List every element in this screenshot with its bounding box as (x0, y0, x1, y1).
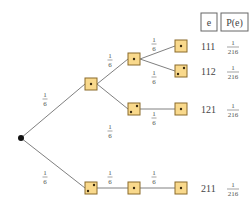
probability-tree-diagram: 1 6 1 6 1 6 1 6 1 6 1 6 1 (0, 0, 252, 215)
svg-text:6: 6 (152, 119, 156, 127)
svg-text:1: 1 (231, 39, 235, 47)
svg-text:1: 1 (231, 181, 235, 189)
svg-text:6: 6 (108, 61, 112, 69)
svg-text:1: 1 (152, 69, 156, 77)
svg-text:1: 1 (152, 110, 156, 118)
prob-label-12: 1 6 (152, 110, 157, 127)
svg-text:6: 6 (108, 178, 112, 186)
prob-label-1-upper: 1 6 (108, 52, 113, 69)
prob-label-root-upper: 1 6 (43, 91, 48, 108)
prob-label-21: 1 6 (152, 169, 157, 186)
svg-text:6: 6 (152, 45, 156, 53)
edge-1-to-11 (97, 59, 128, 84)
svg-text:216: 216 (228, 48, 239, 56)
die-face-2-icon (85, 182, 97, 194)
svg-text:216: 216 (228, 190, 239, 198)
outcome-row: 211 1 216 (201, 181, 239, 198)
svg-text:6: 6 (152, 178, 156, 186)
svg-text:6: 6 (43, 100, 47, 108)
root-node (18, 135, 24, 141)
edge-1-to-12 (97, 84, 128, 109)
svg-text:211: 211 (201, 183, 216, 194)
svg-text:6: 6 (152, 78, 156, 86)
svg-text:6: 6 (108, 132, 112, 140)
die-face-1-icon (175, 40, 187, 52)
prob-label-1-lower: 1 6 (108, 123, 113, 140)
svg-text:216: 216 (228, 73, 239, 81)
edge-root-to-1 (21, 84, 85, 138)
header-outcome: e (201, 13, 217, 31)
svg-text:1: 1 (108, 52, 112, 60)
svg-text:e: e (207, 17, 212, 28)
die-face-1-icon (175, 103, 187, 115)
svg-text:1: 1 (231, 102, 235, 110)
svg-text:111: 111 (201, 41, 215, 52)
prob-label-2: 1 6 (108, 169, 113, 186)
die-face-2-icon (128, 103, 140, 115)
outcome-row: 111 1 216 (201, 39, 239, 56)
svg-text:1: 1 (108, 123, 112, 131)
die-face-2-icon (175, 65, 187, 77)
die-face-1-icon (85, 78, 97, 90)
svg-text:1: 1 (43, 169, 47, 177)
svg-text:216: 216 (228, 111, 239, 119)
die-face-1-icon (128, 182, 140, 194)
die-face-1-icon (128, 53, 140, 65)
outcome-row: 112 1 216 (201, 64, 239, 81)
svg-text:121: 121 (201, 104, 216, 115)
svg-text:1: 1 (231, 64, 235, 72)
die-face-1-icon (175, 182, 187, 194)
svg-text:6: 6 (43, 178, 47, 186)
svg-text:1: 1 (152, 169, 156, 177)
prob-label-root-lower: 1 6 (43, 169, 48, 186)
svg-text:P(e): P(e) (226, 17, 243, 29)
edge-root-to-2 (21, 138, 85, 188)
svg-text:1: 1 (43, 91, 47, 99)
svg-text:112: 112 (201, 66, 216, 77)
svg-text:1: 1 (152, 36, 156, 44)
outcome-row: 121 1 216 (201, 102, 239, 119)
edge-11-to-112 (140, 59, 175, 71)
svg-text:1: 1 (108, 169, 112, 177)
edge-11-to-111 (140, 46, 175, 59)
prob-label-11-lower: 1 6 (152, 69, 157, 86)
prob-label-11-upper: 1 6 (152, 36, 157, 53)
header-probability: P(e) (221, 13, 248, 31)
